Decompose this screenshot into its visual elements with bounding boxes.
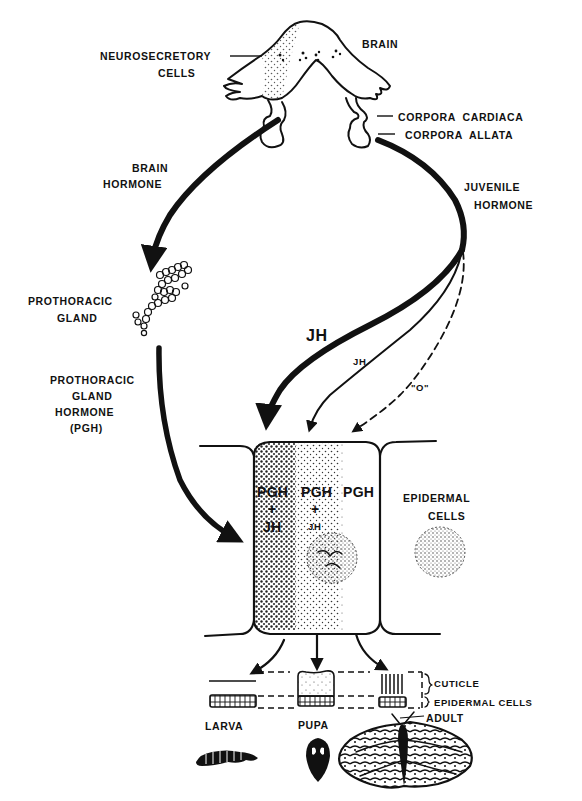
cuticle-label: CUTICLE: [434, 678, 479, 689]
prothoracic-gland-label: PROTHORACIC: [28, 295, 113, 307]
pupa-chrysalis: [306, 738, 330, 782]
metamorphosis-diagram: BRAIN NEUROSECRETORY CELLS CORPORA CARDI…: [0, 0, 582, 801]
pgh-arrow: [159, 348, 235, 538]
left-cell-membrane: [200, 446, 254, 636]
neurosecretory-label: NEUROSECRETORY: [100, 50, 211, 62]
adult-leader: [400, 716, 424, 718]
corpora-allata-label: CORPORA ALLATA: [405, 129, 513, 141]
adult-epidermis: [379, 697, 406, 707]
pgh-label-1: PROTHORACIC: [50, 374, 135, 386]
cross-sections: CUTICLE EPIDERMAL CELLS: [209, 671, 533, 708]
juvenile-hormone-label-2: HORMONE: [474, 199, 533, 211]
epidermis-brace: [425, 697, 429, 707]
adult-label: ADULT: [426, 712, 464, 724]
pupa-cuticle: [298, 671, 334, 696]
zone-3-pgh: PGH: [343, 484, 374, 500]
larva-caterpillar: [196, 751, 258, 767]
pgh-label-3: HORMONE: [55, 406, 114, 418]
brain-hormone-label: BRAIN: [132, 162, 168, 174]
zone-2-pgh: PGH: [301, 484, 332, 500]
brain-label: BRAIN: [362, 38, 398, 50]
pgh-label-4: (PGH): [70, 422, 103, 434]
epidermal-cells-label: EPIDERMAL: [403, 492, 470, 504]
juvenile-hormone-label: JUVENILE: [464, 181, 520, 193]
pupa-epidermis: [298, 696, 334, 706]
larva-label: LARVA: [205, 720, 243, 732]
zone-1-jh: JH: [263, 519, 282, 535]
central-nucleus: [307, 533, 357, 583]
jh-zero-arrow: [355, 252, 464, 430]
jh-high-label: JH: [306, 327, 327, 344]
adult-cuticle: [382, 674, 402, 694]
neighbor-nucleus: [415, 527, 465, 577]
epidermal-cells-label-2: CELLS: [428, 510, 465, 522]
jh-low-label: JH: [353, 356, 366, 367]
zone-larval: [254, 442, 296, 630]
pgh-label-2: GLAND: [72, 390, 112, 402]
jh-trunk: [378, 140, 464, 250]
larva-epidermis: [210, 695, 256, 707]
brain-hormone-arrow: [152, 120, 278, 262]
zone-2-plus: +: [311, 501, 319, 517]
right-corpora: [346, 98, 370, 148]
brain-hormone-label-2: HORMONE: [103, 178, 162, 190]
cuticle-brace: [425, 674, 432, 694]
zone-1-plus: +: [268, 501, 276, 517]
adult-outcome-arrow: [356, 634, 384, 668]
brain-outline: [224, 21, 390, 99]
neurosecretory-label-2: CELLS: [158, 67, 195, 79]
jh-zero-label: "O": [411, 382, 429, 393]
pupa-label: PUPA: [298, 719, 329, 731]
corpora-cardiaca-label: CORPORA CARDIACA: [398, 111, 523, 123]
prothoracic-gland-label-2: GLAND: [57, 312, 97, 324]
zone-2-jh: JH: [308, 521, 321, 532]
epidermal-layer-label: EPIDERMAL CELLS: [434, 697, 533, 708]
prothoracic-gland: [133, 262, 192, 336]
jh-high-arrow: [267, 250, 462, 420]
epidermal-cells: PGH + JH PGH + JH PGH EPIDERMAL CELLS: [200, 441, 470, 636]
larva-outcome-arrow: [254, 640, 284, 672]
zone-1-pgh: PGH: [257, 484, 288, 500]
